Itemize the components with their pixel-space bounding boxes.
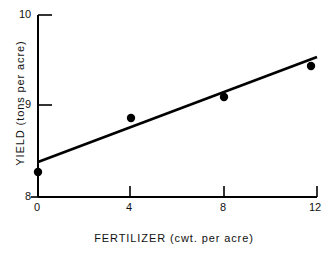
x-tick-label-0: 0 <box>34 201 40 213</box>
x-tick-label-4: 4 <box>126 201 132 213</box>
data-point <box>307 62 315 70</box>
data-point <box>127 114 135 122</box>
chart-figure: 10 9 8 0 4 8 12 FERTILIZER (cwt. per acr… <box>0 0 330 259</box>
data-point <box>34 168 42 176</box>
x-axis-title: FERTILIZER (cwt. per acre) <box>0 232 330 244</box>
x-tick-label-8: 8 <box>220 201 226 213</box>
y-axis-title: YIELD (tons per acre) <box>14 8 26 198</box>
chart-canvas <box>0 0 330 259</box>
data-point <box>220 93 228 101</box>
y-axis-title-wrapper: YIELD (tons per acre) <box>14 8 30 198</box>
regression-line <box>38 57 317 162</box>
x-tick-label-12: 12 <box>309 201 321 213</box>
